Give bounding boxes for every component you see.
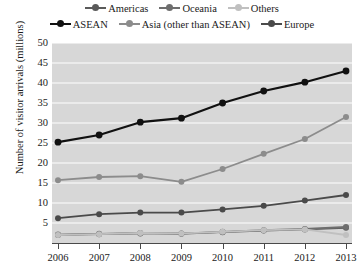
data-point xyxy=(343,192,349,198)
x-axis-tick-marks xyxy=(52,243,352,249)
data-point xyxy=(55,139,62,146)
x-tick-mark xyxy=(99,243,100,249)
legend-label-others: Others xyxy=(251,3,279,14)
y-tick-label: 15 xyxy=(20,178,48,188)
data-point xyxy=(55,232,61,238)
legend-label-asia-other: Asia (other than ASEAN) xyxy=(142,19,250,30)
legend-marker-icon xyxy=(50,19,71,30)
data-point xyxy=(96,174,102,180)
x-tick-label: 2010 xyxy=(203,251,243,265)
x-tick-label: 2012 xyxy=(285,251,325,265)
data-point xyxy=(261,203,267,209)
legend-marker-icon xyxy=(85,3,106,14)
x-tick-mark xyxy=(58,243,59,249)
y-tick-label: 10 xyxy=(20,198,48,208)
x-tick-label: 2013 xyxy=(326,251,364,265)
data-point xyxy=(302,198,308,204)
legend-label-asean: ASEAN xyxy=(73,19,108,30)
y-tick-label: 20 xyxy=(20,158,48,168)
legend-label-europe: Europe xyxy=(284,19,314,30)
y-tick-label: 25 xyxy=(20,138,48,148)
data-point xyxy=(261,227,267,233)
data-point xyxy=(219,100,226,107)
legend-marker-icon xyxy=(119,19,140,30)
data-point xyxy=(343,68,350,75)
data-point xyxy=(261,151,267,157)
data-point xyxy=(137,230,143,236)
legend-marker-icon xyxy=(159,3,180,14)
data-point xyxy=(96,132,103,139)
legend-row-2: ASEAN Asia (other than ASEAN) Europe xyxy=(0,16,364,32)
x-tick-mark xyxy=(140,243,141,249)
y-axis-tick-labels: 5101520253035404550 xyxy=(20,38,48,248)
legend-item-asean: ASEAN xyxy=(50,19,108,30)
legend-item-europe: Europe xyxy=(261,19,314,30)
data-point xyxy=(137,173,143,179)
data-point xyxy=(137,119,144,126)
y-tick-label: 40 xyxy=(20,78,48,88)
plot-area xyxy=(52,43,352,243)
series-asia-other-than-asean xyxy=(55,114,349,185)
x-axis-tick-labels: 20062007200820092010201120122013 xyxy=(52,251,352,267)
data-point xyxy=(137,210,143,216)
data-point xyxy=(260,88,267,95)
data-point xyxy=(96,231,102,237)
y-tick-label: 50 xyxy=(20,38,48,48)
data-point xyxy=(178,230,184,236)
data-point xyxy=(178,210,184,216)
y-tick-label: 35 xyxy=(20,98,48,108)
data-point xyxy=(343,114,349,120)
chart-legend: Americas Oceania Others ASEAN Asia (othe… xyxy=(0,0,364,34)
x-tick-label: 2007 xyxy=(79,251,119,265)
data-point xyxy=(301,79,308,86)
legend-item-others: Others xyxy=(228,3,279,14)
legend-marker-icon xyxy=(261,19,282,30)
series-others xyxy=(55,226,349,238)
legend-item-americas: Americas xyxy=(85,3,148,14)
y-tick-label: 45 xyxy=(20,58,48,68)
legend-label-americas: Americas xyxy=(108,3,148,14)
x-tick-label: 2006 xyxy=(38,251,78,265)
y-tick-label: 30 xyxy=(20,118,48,128)
data-point xyxy=(178,115,185,122)
data-point xyxy=(302,136,308,142)
x-tick-label: 2009 xyxy=(161,251,201,265)
x-tick-mark xyxy=(305,243,306,249)
series-canvas xyxy=(52,43,352,243)
data-point xyxy=(178,179,184,185)
data-point xyxy=(343,232,349,238)
series-line xyxy=(58,117,346,182)
y-tick-label: 5 xyxy=(20,218,48,228)
data-point xyxy=(220,229,226,235)
data-point xyxy=(343,224,349,230)
data-point xyxy=(55,177,61,183)
data-point xyxy=(220,206,226,212)
x-tick-label: 2011 xyxy=(244,251,284,265)
legend-item-asia-other: Asia (other than ASEAN) xyxy=(119,19,250,30)
x-tick-mark xyxy=(346,243,347,249)
legend-row-1: Americas Oceania Others xyxy=(0,0,364,16)
legend-label-oceania: Oceania xyxy=(182,3,216,14)
visitor-arrivals-line-chart: Americas Oceania Others ASEAN Asia (othe… xyxy=(0,0,364,274)
legend-item-oceania: Oceania xyxy=(159,3,216,14)
data-point xyxy=(55,215,61,221)
data-point xyxy=(96,211,102,217)
x-tick-mark xyxy=(264,243,265,249)
x-tick-label: 2008 xyxy=(120,251,160,265)
data-point xyxy=(220,166,226,172)
x-tick-mark xyxy=(181,243,182,249)
data-point xyxy=(302,226,308,232)
series-europe xyxy=(55,192,349,221)
legend-marker-icon xyxy=(228,3,249,14)
x-tick-mark xyxy=(223,243,224,249)
series-asean xyxy=(55,68,350,146)
